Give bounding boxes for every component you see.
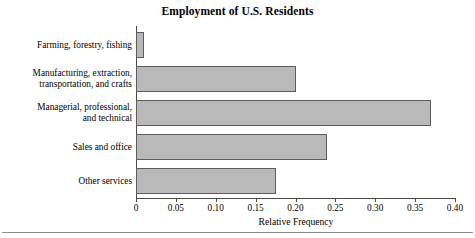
x-tick-mark [216,198,217,202]
plot-area [136,28,455,198]
x-tick-mark [415,198,416,202]
y-axis-category-labels: Farming, forestry, fishingManufacturing,… [0,28,132,198]
bottom-divider [2,232,473,233]
x-tick-label: 0 [116,203,156,213]
x-axis-title: Relative Frequency [136,216,456,227]
category-label: Other services [2,176,132,187]
x-tick-mark [136,198,137,202]
category-label: Manufacturing, extraction,transportation… [2,68,132,90]
category-label-line: and technical [2,113,132,124]
category-label: Sales and office [2,142,132,153]
x-tick-mark [335,198,336,202]
category-label: Farming, forestry, fishing [2,40,132,51]
x-tick-mark [455,198,456,202]
bar [136,66,296,92]
bar [136,134,327,160]
category-label-line: Manufacturing, extraction, [2,68,132,79]
category-label-line: Other services [2,176,132,187]
x-tick-label: 0.20 [276,203,316,213]
category-label-line: Farming, forestry, fishing [2,40,132,51]
x-tick-mark [256,198,257,202]
x-tick-label: 0.10 [196,203,236,213]
bar-chart-figure: Employment of U.S. Residents Farming, fo… [0,0,475,238]
x-tick-label: 0.30 [355,203,395,213]
x-tick-label: 0.25 [315,203,355,213]
bar [136,100,431,126]
category-label-line: transportation, and crafts [2,79,132,90]
bar-row [136,32,455,58]
bar-row [136,100,455,126]
category-label: Managerial, professional,and technical [2,102,132,124]
x-tick-label: 0.15 [236,203,276,213]
bar-row [136,134,455,160]
x-tick-label: 0.05 [156,203,196,213]
chart-title: Employment of U.S. Residents [0,5,475,17]
bar [136,32,144,58]
category-label-line: Managerial, professional, [2,102,132,113]
x-tick-label: 0.35 [395,203,435,213]
category-label-line: Sales and office [2,142,132,153]
x-tick-mark [375,198,376,202]
bar-row [136,168,455,194]
bar-row [136,66,455,92]
x-tick-mark [296,198,297,202]
x-tick-mark [176,198,177,202]
x-tick-label: 0.40 [435,203,475,213]
bar [136,168,276,194]
